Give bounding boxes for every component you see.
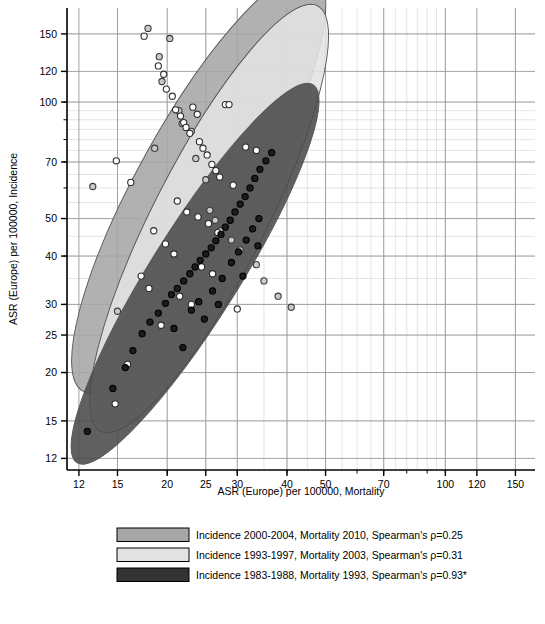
data-point (155, 63, 161, 69)
x-axis-title: ASR (Europe) per 100000, Mortality (218, 485, 386, 497)
data-point (173, 107, 179, 113)
chart-legend: Incidence 2000-2004, Mortality 2010, Spe… (117, 528, 467, 582)
y-tick-label: 25 (45, 329, 57, 341)
y-axis-title: ASR (Europe) per 100000, Incidence (7, 153, 19, 325)
data-point (84, 428, 90, 434)
data-point (197, 257, 203, 263)
x-tick-label: 25 (200, 478, 212, 490)
data-point (205, 221, 211, 227)
data-point (207, 207, 213, 213)
data-point (130, 347, 136, 353)
data-point (194, 111, 200, 117)
x-tick-label: 20 (161, 478, 173, 490)
data-point (253, 262, 259, 268)
data-point (161, 71, 167, 77)
data-point (163, 86, 169, 92)
y-tick-label: 70 (45, 156, 57, 168)
data-point (250, 226, 256, 232)
data-point (219, 275, 225, 281)
data-point (256, 215, 262, 221)
data-point (158, 322, 164, 328)
y-tick-label: 40 (45, 250, 57, 262)
data-point (242, 193, 248, 199)
data-point (169, 93, 175, 99)
data-point (193, 155, 199, 161)
y-tick-label: 120 (39, 65, 57, 77)
x-tick-label: 15 (112, 478, 124, 490)
scatter-plot-svg: 1215202530405070100120150 12152025304050… (0, 0, 545, 624)
data-point (114, 308, 120, 314)
data-point (228, 259, 234, 265)
legend-label-3: Incidence 1983-1988, Mortality 1993, Spe… (196, 569, 467, 581)
data-point (227, 217, 233, 223)
data-point (257, 166, 263, 172)
y-tick-label: 15 (45, 415, 57, 427)
data-point (190, 104, 196, 110)
data-point (196, 299, 202, 305)
legend-label-1: Incidence 2000-2004, Mortality 2010, Spe… (196, 529, 463, 541)
data-point (128, 179, 134, 185)
data-point (261, 278, 267, 284)
data-point (232, 209, 238, 215)
data-point (234, 306, 240, 312)
data-point (181, 278, 187, 284)
data-point (146, 285, 152, 291)
data-point (269, 150, 275, 156)
y-tick-label: 12 (45, 452, 57, 464)
data-point (162, 241, 168, 247)
data-point (222, 224, 228, 230)
data-point (110, 385, 116, 391)
data-point (217, 174, 223, 180)
y-tick-label: 30 (45, 298, 57, 310)
data-point (218, 231, 224, 237)
data-point (152, 145, 158, 151)
data-point (204, 152, 210, 158)
legend-swatch-3 (117, 568, 189, 582)
data-point (188, 307, 194, 313)
data-point (235, 249, 241, 255)
chart-figure: 1215202530405070100120150 12152025304050… (0, 0, 545, 624)
data-point (240, 273, 246, 279)
y-tick-label: 20 (45, 366, 57, 378)
data-point (252, 175, 258, 181)
data-point (255, 243, 261, 249)
x-tick-label: 120 (468, 478, 486, 490)
data-point (112, 401, 118, 407)
data-point (174, 285, 180, 291)
data-point (226, 101, 232, 107)
data-point (195, 214, 201, 220)
data-point (230, 182, 236, 188)
data-point (177, 293, 183, 299)
data-point (167, 35, 173, 41)
data-point (187, 271, 193, 277)
data-point (177, 113, 183, 119)
data-point (183, 124, 189, 130)
data-point (198, 264, 204, 270)
data-point (228, 237, 234, 243)
data-point (139, 331, 145, 337)
data-point (122, 364, 128, 370)
data-point (145, 25, 151, 31)
data-point (162, 300, 168, 306)
data-point (215, 301, 221, 307)
data-point (200, 145, 206, 151)
y-tick-label: 100 (39, 96, 57, 108)
legend-swatch-1 (117, 528, 189, 542)
data-point (171, 251, 177, 257)
data-point (155, 310, 161, 316)
data-point (159, 78, 165, 84)
y-tick-label: 50 (45, 212, 57, 224)
x-tick-label: 12 (73, 478, 85, 490)
data-point (209, 271, 215, 277)
data-point (213, 238, 219, 244)
data-point (237, 201, 243, 207)
data-point (184, 209, 190, 215)
data-point (263, 158, 269, 164)
data-point (141, 33, 147, 39)
data-point (247, 185, 253, 191)
data-point (201, 316, 207, 322)
y-tick-label: 150 (39, 28, 57, 40)
data-point (180, 345, 186, 351)
data-point (147, 319, 153, 325)
data-point (90, 183, 96, 189)
